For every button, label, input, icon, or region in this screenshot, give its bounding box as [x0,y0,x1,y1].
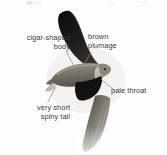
label-pale-throat-line1: pale throat [111,87,165,96]
lower-wing-fade-to-white [74,126,120,155]
swift-illustration [0,0,167,155]
bird-anatomy-figure: cigar-shaped body brown plumage pale thr… [0,0,167,155]
label-cigar-shaped-body-line2: body [6,43,70,52]
label-brown-plumage: brown plumage [88,33,146,50]
label-very-short-spiny-tail-line2: spiny tail [4,113,70,122]
label-very-short-spiny-tail: very short spiny tail [4,104,70,121]
page-artifact-marks [27,1,147,5]
label-cigar-shaped-body: cigar-shaped body [6,34,70,51]
label-brown-plumage-line2: plumage [88,42,146,51]
bird-eye [104,68,106,70]
label-pale-throat: pale throat [111,87,165,96]
